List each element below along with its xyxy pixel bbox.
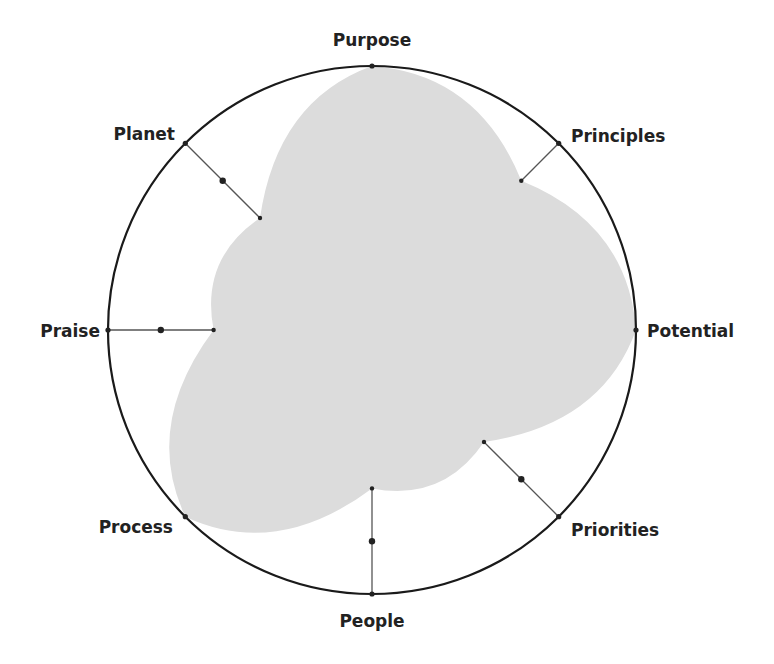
label-priorities: Priorities [571,520,659,540]
mid-marker-praise [158,327,164,333]
outer-marker-principles [556,141,561,146]
outer-marker-purpose [369,63,374,68]
mid-marker-priorities [518,476,524,482]
label-people: People [339,611,404,631]
label-purpose: Purpose [333,30,411,50]
value-marker-praise [211,328,215,332]
mid-marker-planet [220,178,226,184]
mid-marker-people [369,538,375,544]
value-marker-principles [519,179,523,183]
spoke-principles [521,143,558,180]
outer-marker-people [369,591,374,596]
label-principles: Principles [571,126,665,146]
outer-marker-planet [183,141,188,146]
label-planet: Planet [113,124,175,144]
radar-chart: Purpose Principles Potential Priorities … [0,0,774,664]
value-marker-planet [258,216,262,220]
outer-marker-process [183,514,188,519]
score-area [169,66,636,533]
score-area-shape [169,66,636,533]
value-marker-people [370,486,374,490]
outer-marker-potential [633,327,638,332]
value-marker-priorities [482,440,486,444]
label-praise: Praise [40,321,100,341]
label-potential: Potential [647,321,734,341]
outer-marker-priorities [556,514,561,519]
outer-marker-praise [105,327,110,332]
label-process: Process [99,517,173,537]
